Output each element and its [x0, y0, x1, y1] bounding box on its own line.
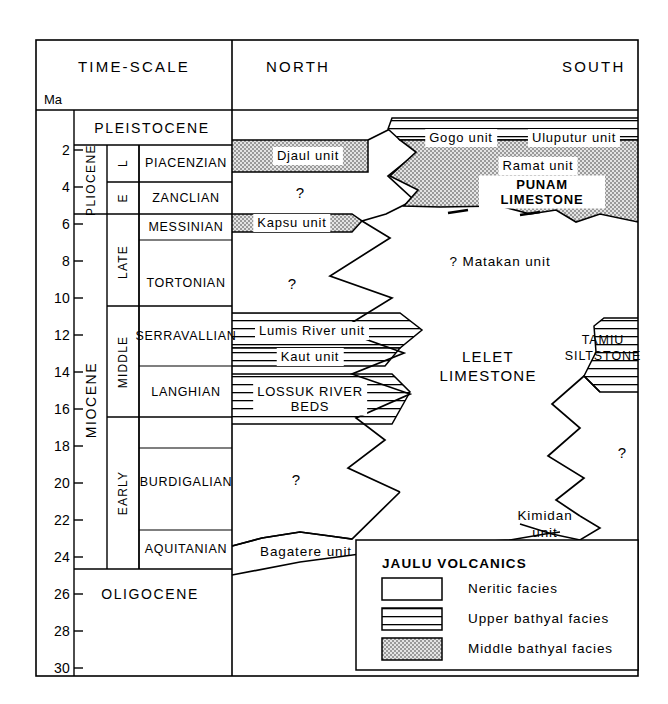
legend-label-upper-bathyal: Upper bathyal facies — [468, 612, 609, 626]
unit-lumis-river: Lumis River unit — [255, 322, 369, 340]
stage-aquitanian: AQUITANIAN — [145, 543, 227, 556]
legend-swatch-middle-bathyal — [382, 638, 442, 660]
epoch-oligocene: OLIGOCENE — [101, 587, 199, 601]
subepoch-middle-miocene: MIDDLE — [117, 336, 129, 389]
stage-messinian: MESSINIAN — [148, 221, 223, 234]
lossuk-line-2: BEDS — [291, 399, 330, 414]
unit-kaut: Kaut unit — [277, 348, 344, 366]
unit-lelet-limestone: LELET LIMESTONE — [439, 347, 536, 385]
unit-kapsu: Kapsu unit — [253, 214, 330, 232]
legend-title: JAULU VOLCANICS — [382, 557, 527, 571]
north-query-2: ? — [288, 276, 296, 291]
epoch-miocene: MIOCENE — [84, 362, 98, 439]
south-header: SOUTH — [562, 59, 626, 74]
unit-punam-limestone: PUNAM LIMESTONE — [479, 176, 605, 209]
legend-swatch-upper-bathyal — [382, 608, 442, 630]
epoch-pleistocene: PLEISTOCENE — [94, 121, 209, 135]
stage-langhian: LANGHIAN — [151, 386, 221, 399]
lelet-line-2: LIMESTONE — [439, 367, 536, 384]
stage-zanclian: ZANCLIAN — [152, 192, 219, 205]
tick-26: 26 — [38, 587, 70, 601]
subepoch-early-miocene: EARLY — [117, 471, 129, 515]
unit-gogo: Gogo unit — [425, 129, 497, 147]
tick-18: 18 — [38, 439, 70, 453]
stage-tortonian: TORTONIAN — [146, 277, 225, 290]
lelet-tamiu-boundary — [548, 376, 600, 516]
legend-label-neritic: Neritic facies — [468, 582, 558, 596]
unit-uluputur: Uluputur unit — [528, 129, 620, 147]
unit-lossuk-river-beds: LOSSUK RIVER BEDS — [253, 383, 367, 416]
stage-burdigalian: BURDIGALIAN — [140, 476, 232, 489]
unit-ramat: Ramat unit — [499, 157, 578, 175]
stage-piacenzian: PIACENZIAN — [145, 157, 227, 170]
tick-8: 8 — [38, 254, 70, 268]
north-header: NORTH — [266, 59, 330, 74]
tick-6: 6 — [38, 217, 70, 231]
subepoch-late-miocene: LATE — [117, 245, 129, 279]
epoch-pliocene: PLIOCENE — [85, 144, 97, 216]
subepoch-early-pliocene: E — [117, 193, 129, 202]
tick-16: 16 — [38, 402, 70, 416]
unit-tamiu-siltstone: TAMIU SILTSTONE — [565, 332, 641, 364]
tamiu-line-2: SILTSTONE — [565, 349, 641, 363]
unit-bagatere: Bagatere unit — [260, 543, 352, 560]
ma-axis-label: Ma — [44, 93, 62, 106]
tick-12: 12 — [38, 328, 70, 342]
tick-10: 10 — [38, 291, 70, 305]
axis-ticks — [74, 150, 83, 668]
tick-14: 14 — [38, 365, 70, 379]
tick-30: 30 — [38, 661, 70, 675]
subepoch-late-pliocene: L — [117, 159, 129, 167]
legend-label-middle-bathyal: Middle bathyal facies — [468, 642, 613, 656]
unit-kimidan: Kimidan unit — [517, 507, 572, 542]
legend-swatch-neritic — [382, 578, 442, 600]
tick-2: 2 — [38, 143, 70, 157]
tick-4: 4 — [38, 180, 70, 194]
tick-28: 28 — [38, 624, 70, 638]
unit-djaul: Djaul unit — [273, 147, 343, 165]
tick-22: 22 — [38, 513, 70, 527]
tick-20: 20 — [38, 476, 70, 490]
unit-matakan: ? Matakan unit — [449, 253, 550, 270]
north-query-1: ? — [296, 185, 304, 200]
kimidan-line-2: unit — [532, 525, 557, 540]
tamiu-line-1: TAMIU — [582, 333, 624, 347]
tick-24: 24 — [38, 550, 70, 564]
north-query-3: ? — [292, 472, 300, 487]
lossuk-line-1: LOSSUK RIVER — [257, 384, 363, 399]
stage-serravallian: SERRAVALLIAN — [135, 330, 236, 343]
stratigraphic-chart: TIME-SCALE Ma NORTH SOUTH 2 4 6 8 10 12 … — [0, 0, 668, 704]
timescale-header: TIME-SCALE — [78, 59, 190, 74]
south-query-4: ? — [618, 445, 626, 460]
lelet-line-1: LELET — [462, 348, 514, 365]
kimidan-line-1: Kimidan — [517, 508, 572, 523]
